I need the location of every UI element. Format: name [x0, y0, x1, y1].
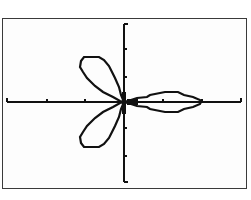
origin-axis-overlap	[122, 92, 126, 114]
lower-left-petal	[80, 102, 124, 147]
origin-blob	[127, 99, 137, 105]
upper-left-petal	[80, 57, 124, 102]
polar-graph	[0, 0, 251, 200]
